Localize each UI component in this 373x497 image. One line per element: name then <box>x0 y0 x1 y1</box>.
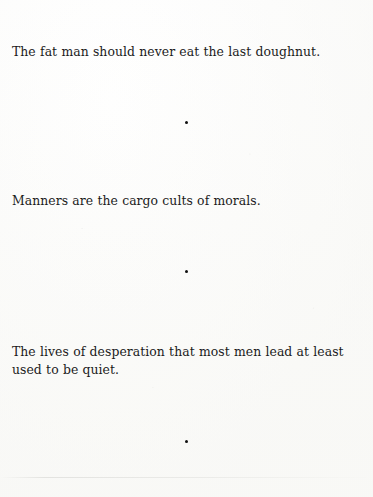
section-separator <box>0 264 373 275</box>
section-separator <box>0 115 373 126</box>
bullet-dot-icon <box>185 440 188 443</box>
scan-artifact-line <box>0 477 373 478</box>
aphorism-entry: Manners are the cargo cults of morals. <box>12 192 364 210</box>
bullet-dot-icon <box>185 121 188 124</box>
paper-texture <box>0 0 373 497</box>
running-header: BOOK <box>334 0 362 2</box>
section-separator <box>0 434 373 445</box>
scan-grain <box>0 0 373 497</box>
aphorism-entry: The lives of desperation that most men l… <box>12 343 364 378</box>
aphorism-entry: The fat man should never eat the last do… <box>12 43 364 61</box>
scanned-page: BOOK The fat man should never eat the la… <box>0 0 373 497</box>
bullet-dot-icon <box>185 270 188 273</box>
